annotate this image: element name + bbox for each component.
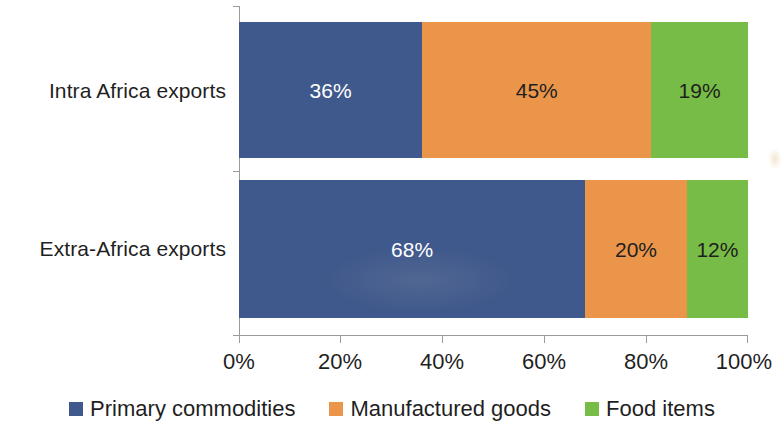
x-axis-label-80: 80% [624, 349, 668, 375]
x-axis-label-0: 0% [223, 349, 255, 375]
bar-segment-primary-commodities[interactable]: 36% [239, 22, 422, 158]
x-axis-label-100: 100% [716, 349, 772, 375]
x-axis-tick-100 [747, 336, 748, 343]
x-axis-tick-0 [239, 336, 240, 343]
bar-segment-value-label: 12% [696, 239, 738, 260]
legend-swatch-icon [69, 402, 83, 416]
x-axis-label-40: 40% [420, 349, 464, 375]
legend-swatch-icon [329, 402, 343, 416]
bar-segment-value-label: 20% [615, 239, 657, 260]
bar-row-intra-africa-exports: 36% 45% 19% [239, 22, 748, 158]
plot-area: 36% 45% 19% 68% 20% 12% 0% 20% 40% 60% [239, 6, 748, 336]
legend-item-primary-commodities[interactable]: Primary commodities [69, 396, 295, 422]
bar-segment-manufactured-goods[interactable]: 20% [585, 180, 687, 318]
bar-segment-primary-commodities[interactable]: 68% [239, 180, 585, 318]
chart-legend: Primary commodities Manufactured goods F… [0, 396, 784, 422]
y-axis-tick-middle [233, 171, 239, 172]
legend-item-food-items[interactable]: Food items [585, 396, 715, 422]
bar-segment-value-label: 68% [391, 239, 433, 260]
bar-segment-value-label: 36% [310, 80, 352, 101]
legend-label: Primary commodities [90, 396, 295, 422]
bar-row-extra-africa-exports: 68% 20% 12% [239, 180, 748, 318]
x-axis-line [239, 335, 748, 336]
category-label-extra-africa-exports: Extra-Africa exports [0, 237, 226, 261]
bar-segment-value-label: 19% [679, 80, 721, 101]
legend-swatch-icon [585, 402, 599, 416]
x-axis-label-60: 60% [522, 349, 566, 375]
x-axis-label-20: 20% [318, 349, 362, 375]
legend-label: Manufactured goods [350, 396, 551, 422]
legend-item-manufactured-goods[interactable]: Manufactured goods [329, 396, 551, 422]
x-axis-tick-40 [442, 336, 443, 343]
bar-segment-food-items[interactable]: 12% [687, 180, 748, 318]
stacked-bar-chart: Intra Africa exports Extra-Africa export… [0, 0, 784, 433]
bar-segment-value-label: 45% [516, 80, 558, 101]
category-label-intra-africa-exports: Intra Africa exports [0, 79, 226, 103]
legend-label: Food items [606, 396, 715, 422]
x-axis-tick-20 [340, 336, 341, 343]
x-axis-tick-80 [646, 336, 647, 343]
scan-artifact [768, 148, 782, 170]
y-axis-tick-top [233, 6, 239, 7]
bar-segment-food-items[interactable]: 19% [651, 22, 748, 158]
bar-segment-manufactured-goods[interactable]: 45% [422, 22, 651, 158]
x-axis-tick-60 [544, 336, 545, 343]
